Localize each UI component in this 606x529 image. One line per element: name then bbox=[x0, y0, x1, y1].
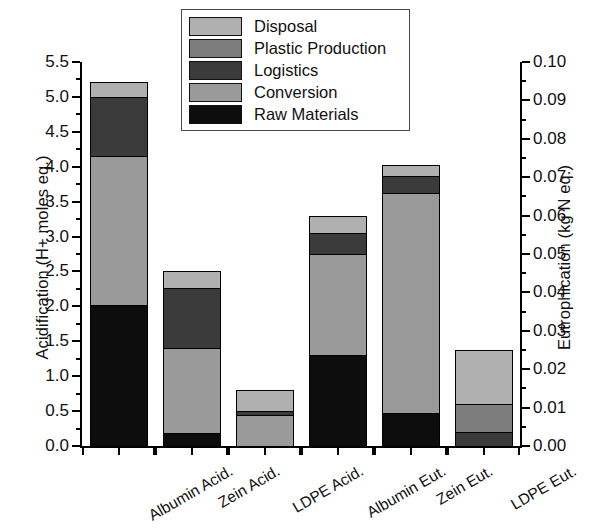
axis-spine-left bbox=[80, 62, 82, 448]
x-tick-minor bbox=[301, 446, 303, 455]
y-left-tick-label: 1.5 bbox=[45, 332, 69, 349]
y-left-tick-mark bbox=[72, 305, 80, 307]
bar-segment-raw-materials[interactable] bbox=[90, 305, 148, 446]
y-left-tick-mark bbox=[72, 236, 80, 238]
y-left-minor-tick bbox=[76, 288, 80, 290]
y-right-minor-tick bbox=[522, 234, 526, 236]
legend-swatch-icon bbox=[189, 83, 242, 102]
bar-segment-logistics[interactable] bbox=[382, 176, 440, 193]
y-left-tick-label: 5.0 bbox=[45, 88, 69, 105]
bar-segment-disposal[interactable] bbox=[163, 271, 221, 288]
x-axis-label-6: LDPE Eut. bbox=[507, 462, 579, 514]
y-left-minor-tick bbox=[76, 428, 80, 430]
bar-2[interactable] bbox=[163, 271, 221, 446]
bar-segment-logistics[interactable] bbox=[455, 432, 513, 446]
y-right-tick-label: 0.03 bbox=[533, 322, 566, 339]
legend-swatch-icon bbox=[189, 17, 242, 36]
legend-item-conversion[interactable]: Conversion bbox=[189, 81, 403, 103]
y-right-minor-tick bbox=[522, 426, 526, 428]
y-left-tick-mark bbox=[72, 410, 80, 412]
bar-segment-disposal[interactable] bbox=[382, 165, 440, 176]
y-left-minor-tick bbox=[76, 253, 80, 255]
y-right-tick-label: 0.05 bbox=[533, 245, 566, 262]
y-right-tick-label: 0.04 bbox=[533, 283, 566, 300]
y-right-tick-mark bbox=[522, 138, 530, 140]
bar-1[interactable] bbox=[90, 82, 148, 446]
y-left-tick-mark bbox=[72, 340, 80, 342]
x-tick-minor bbox=[228, 446, 230, 455]
y-left-tick-label: 3.0 bbox=[45, 228, 69, 245]
y-left-tick-label: 2.5 bbox=[45, 262, 69, 279]
legend-item-raw-materials[interactable]: Raw Materials bbox=[189, 103, 403, 125]
legend-item-disposal[interactable]: Disposal bbox=[189, 15, 403, 37]
bar-segment-logistics[interactable] bbox=[236, 411, 294, 414]
legend-item-plastic-production[interactable]: Plastic Production bbox=[189, 37, 403, 59]
y-left-minor-tick bbox=[76, 183, 80, 185]
y-left-tick-mark bbox=[72, 96, 80, 98]
y-left-tick-mark bbox=[72, 270, 80, 272]
y-right-tick-mark bbox=[522, 253, 530, 255]
y-left-tick-mark bbox=[72, 166, 80, 168]
stacked-bar-chart: Acidification (H+ moles eq.) Eutrophicat… bbox=[0, 0, 606, 529]
y-right-tick-mark bbox=[522, 445, 530, 447]
y-left-minor-tick bbox=[76, 218, 80, 220]
y-right-tick-label: 0.10 bbox=[533, 53, 566, 70]
y-left-tick-label: 2.0 bbox=[45, 297, 69, 314]
x-tick-major bbox=[337, 446, 339, 455]
bar-segment-disposal[interactable] bbox=[90, 82, 148, 97]
bar-segment-raw-materials[interactable] bbox=[382, 413, 440, 446]
y-left-minor-tick bbox=[76, 393, 80, 395]
x-tick-major bbox=[191, 446, 193, 455]
y-left-tick-mark bbox=[72, 131, 80, 133]
legend-label: Conversion bbox=[254, 84, 337, 101]
bar-segment-conversion[interactable] bbox=[236, 415, 294, 446]
y-left-tick-label: 4.5 bbox=[45, 123, 69, 140]
bar-segment-conversion[interactable] bbox=[382, 193, 440, 413]
y-right-tick-mark bbox=[522, 99, 530, 101]
y-right-tick-label: 0.00 bbox=[533, 437, 566, 454]
bar-4[interactable] bbox=[309, 216, 367, 446]
bar-segment-logistics[interactable] bbox=[163, 288, 221, 348]
x-tick-minor bbox=[518, 446, 520, 455]
bar-segment-conversion[interactable] bbox=[309, 254, 367, 355]
legend-item-logistics[interactable]: Logistics bbox=[189, 59, 403, 81]
x-tick-minor bbox=[155, 446, 157, 455]
y-left-tick-label: 0.5 bbox=[45, 402, 69, 419]
legend-swatch-icon bbox=[189, 105, 242, 124]
bar-segment-conversion[interactable] bbox=[90, 156, 148, 305]
bar-segment-disposal[interactable] bbox=[309, 216, 367, 233]
bar-segment-raw-materials[interactable] bbox=[309, 355, 367, 446]
legend-label: Disposal bbox=[254, 18, 317, 35]
chart-legend: DisposalPlastic ProductionLogisticsConve… bbox=[181, 9, 410, 131]
x-axis-label-3: LDPE Acid. bbox=[289, 462, 366, 517]
y-left-tick-label: 0.0 bbox=[45, 437, 69, 454]
bar-6[interactable] bbox=[455, 350, 513, 446]
y-left-minor-tick bbox=[76, 113, 80, 115]
x-tick-minor bbox=[82, 446, 84, 455]
bar-5[interactable] bbox=[382, 165, 440, 446]
y-right-tick-mark bbox=[522, 176, 530, 178]
x-tick-major bbox=[410, 446, 412, 455]
x-tick-major bbox=[118, 446, 120, 455]
y-right-tick-mark bbox=[522, 368, 530, 370]
bar-segment-conversion[interactable] bbox=[163, 348, 221, 432]
y-left-tick-label: 4.0 bbox=[45, 158, 69, 175]
bar-segment-raw-materials[interactable] bbox=[163, 433, 221, 446]
bar-segment-logistics[interactable] bbox=[309, 233, 367, 254]
y-right-tick-mark bbox=[522, 215, 530, 217]
x-tick-minor bbox=[447, 446, 449, 455]
bar-3[interactable] bbox=[236, 390, 294, 446]
legend-label: Plastic Production bbox=[254, 40, 386, 57]
y-right-minor-tick bbox=[522, 311, 526, 313]
x-tick-minor bbox=[374, 446, 376, 455]
bar-segment-disposal[interactable] bbox=[236, 390, 294, 411]
y-right-tick-label: 0.08 bbox=[533, 130, 566, 147]
y-right-tick-mark bbox=[522, 291, 530, 293]
bar-segment-plastic-production[interactable] bbox=[455, 404, 513, 432]
y-right-minor-tick bbox=[522, 195, 526, 197]
bar-segment-disposal[interactable] bbox=[455, 350, 513, 404]
y-right-tick-label: 0.09 bbox=[533, 91, 566, 108]
y-left-tick-mark bbox=[72, 201, 80, 203]
bar-segment-logistics[interactable] bbox=[90, 97, 148, 156]
y-left-minor-tick bbox=[76, 358, 80, 360]
